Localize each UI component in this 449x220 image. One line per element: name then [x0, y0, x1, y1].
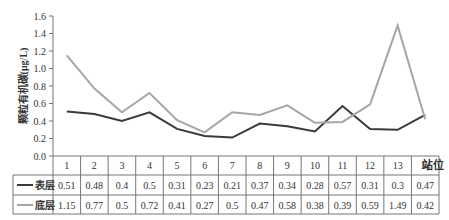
table-cell: 0.5	[143, 180, 156, 191]
table-cell: 0.31	[168, 180, 186, 191]
plot-lines	[67, 26, 425, 138]
data-table: 1234567891011121314表层0.510.480.40.50.310…	[13, 156, 439, 214]
table-cell: 0.77	[86, 200, 104, 211]
table-cell: 1.49	[389, 200, 407, 211]
table-cell: 0.57	[334, 180, 352, 191]
table-cell: 0.27	[196, 200, 214, 211]
y-tick-label: 1.4	[34, 28, 47, 39]
y-tick-label: 0.6	[34, 98, 47, 109]
table-cell: 0.51	[58, 180, 76, 191]
x-category-label: 12	[365, 160, 375, 171]
x-category-label: 5	[175, 160, 180, 171]
table-cell: 0.28	[306, 180, 324, 191]
table-cell: 0.58	[279, 200, 297, 211]
x-category-label: 4	[147, 160, 152, 171]
x-category-label: 10	[310, 160, 320, 171]
table-cell: 0.31	[361, 180, 379, 191]
y-tick-label: 0.2	[34, 133, 47, 144]
x-category-label: 7	[230, 160, 235, 171]
table-cell: 0.48	[86, 180, 104, 191]
table-cell: 0.4	[116, 180, 129, 191]
table-cell: 0.37	[251, 180, 269, 191]
table-cell: 0.38	[306, 200, 324, 211]
table-cell: 0.47	[416, 180, 434, 191]
y-axis: 0.00.20.40.60.81.01.21.41.6	[34, 11, 54, 162]
table-cell: 0.42	[416, 200, 434, 211]
x-category-label: 1	[64, 160, 69, 171]
y-tick-label: 1.6	[34, 11, 47, 22]
line-chart: 0.00.20.40.60.81.01.21.41.6 颗粒有机碳(μg/L) …	[0, 0, 449, 220]
table-cell: 1.15	[58, 200, 76, 211]
x-category-label: 3	[119, 160, 124, 171]
x-category-label: 8	[257, 160, 262, 171]
table-cell: 0.59	[361, 200, 379, 211]
table-cell: 0.47	[251, 200, 269, 211]
x-category-label: 13	[393, 160, 403, 171]
x-axis-label: 站位	[422, 158, 444, 171]
legend-label: 表层	[34, 179, 55, 191]
table-cell: 0.34	[279, 180, 297, 191]
table-cell: 0.3	[391, 180, 404, 191]
table-cell: 0.5	[226, 200, 239, 211]
x-category-label: 9	[285, 160, 290, 171]
table-cell: 0.41	[168, 200, 186, 211]
y-tick-label: 1.2	[34, 46, 47, 57]
y-tick-label: 0.0	[34, 151, 47, 162]
table-cell: 0.72	[141, 200, 159, 211]
x-category-label: 2	[92, 160, 97, 171]
y-tick-label: 0.4	[34, 116, 47, 127]
y-tick-label: 0.8	[34, 81, 47, 92]
table-cell: 0.23	[196, 180, 214, 191]
table-cell: 0.39	[334, 200, 352, 211]
y-tick-label: 1.0	[34, 63, 47, 74]
table-cell: 0.21	[223, 180, 241, 191]
series-line-bottom	[67, 26, 425, 133]
table-cell: 0.5	[116, 200, 129, 211]
y-axis-label: 颗粒有机碳(μg/L)	[17, 48, 30, 125]
x-category-label: 11	[338, 160, 348, 171]
x-category-label: 6	[202, 160, 207, 171]
legend-label: 底层	[35, 199, 55, 211]
